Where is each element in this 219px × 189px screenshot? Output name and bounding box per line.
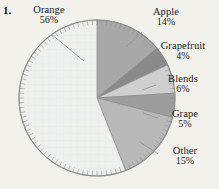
pie-label-apple-value: 14%	[140, 17, 192, 28]
pie-label-orange-value: 56%	[18, 15, 80, 26]
pie-label-orange: Orange 56%	[18, 4, 80, 26]
pie-label-grape-value: 5%	[160, 119, 210, 130]
pie-label-other: Other 15%	[160, 145, 210, 167]
pie-label-grapefruit: Grapefruit 4%	[150, 40, 216, 62]
pie-label-blends-value: 6%	[157, 84, 209, 95]
pie-label-grapefruit-value: 4%	[150, 51, 216, 62]
pie-label-apple: Apple 14%	[140, 6, 192, 28]
pie-label-blends: Blends 6%	[157, 73, 209, 95]
item-number: 1.	[3, 4, 11, 16]
pie-label-other-value: 15%	[160, 156, 210, 167]
pie-label-grape: Grape 5%	[160, 108, 210, 130]
figure-container: 1. Orange 56% Apple 14% Grapefruit 4% Bl…	[0, 0, 219, 189]
